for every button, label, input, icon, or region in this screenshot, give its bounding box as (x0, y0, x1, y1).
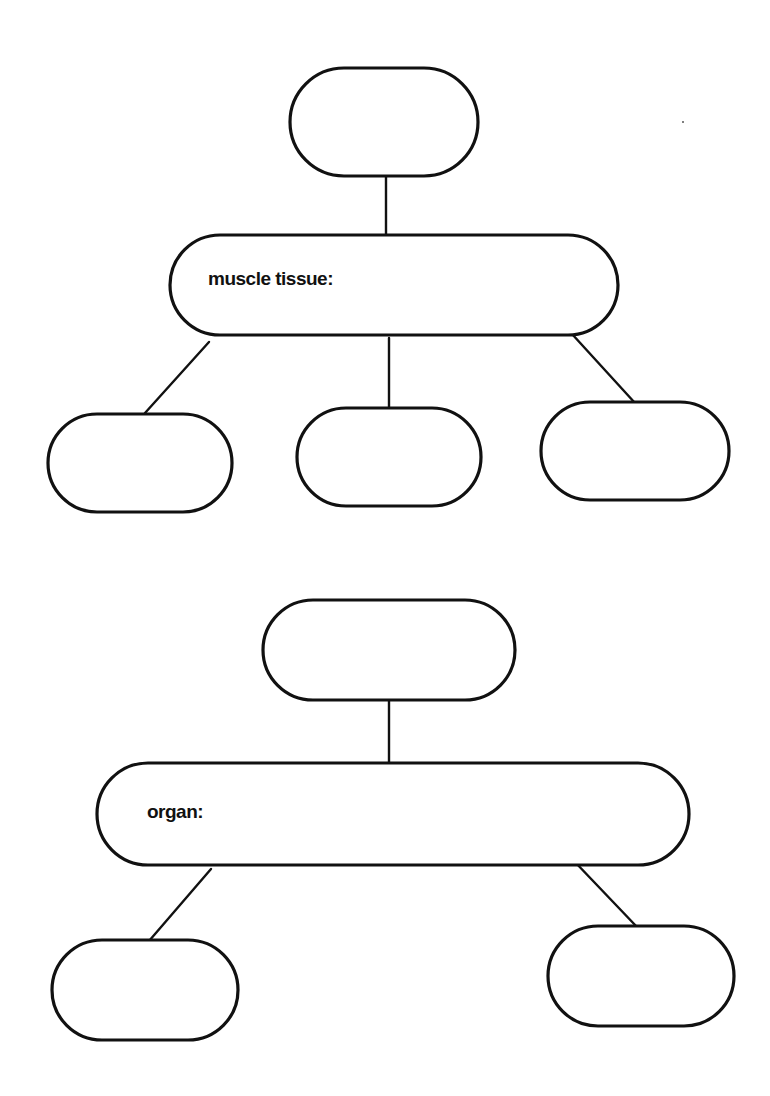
muscle-tissue-map-root-node (290, 68, 478, 176)
organ-map-connector-1 (149, 869, 211, 941)
organ-map-root-node (263, 600, 515, 700)
muscle-tissue-map-child-node-1 (297, 408, 481, 506)
node-labels: muscle tissue: organ: (147, 268, 333, 822)
organ-map-child-node-0 (52, 940, 238, 1040)
organ-label: organ: (147, 801, 203, 822)
muscle-tissue-map-child-node-0 (48, 414, 232, 512)
muscle-tissue-label: muscle tissue: (208, 268, 333, 289)
muscle-tissue-map-connector-1 (145, 342, 209, 413)
organ-map-connector-2 (574, 861, 637, 927)
concept-map-canvas: muscle tissue: organ: (0, 0, 770, 1096)
muscle-tissue-map-connector-3 (572, 334, 635, 403)
muscle-tissue-map-child-node-2 (541, 402, 729, 500)
scan-speck (682, 121, 684, 123)
concept-nodes (48, 68, 734, 1040)
organ-map-child-node-1 (548, 926, 734, 1026)
